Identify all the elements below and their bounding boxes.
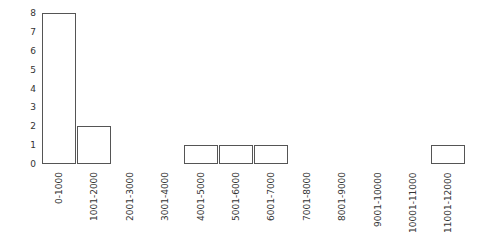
x-tick-label: 2001-3000 <box>125 172 135 221</box>
y-tick-label: 3 <box>26 102 36 112</box>
x-tick-label: 0-1000 <box>54 172 64 204</box>
bar <box>431 145 465 164</box>
bar <box>184 145 218 164</box>
bar <box>254 145 288 164</box>
x-tick-label: 7001-8000 <box>302 172 312 221</box>
y-tick-label: 1 <box>26 140 36 150</box>
histogram-chart: 012345678 0-10001001-20002001-30003001-4… <box>0 0 483 247</box>
x-tick-label: 9001-10000 <box>373 172 383 227</box>
y-tick-label: 4 <box>26 84 36 94</box>
x-tick-label: 11001-12000 <box>443 172 453 233</box>
x-tick-label: 10001-11000 <box>408 172 418 233</box>
x-tick-label: 6001-7000 <box>266 172 276 221</box>
x-tick-label: 3001-4000 <box>160 172 170 221</box>
y-tick-label: 6 <box>26 46 36 56</box>
x-tick-label: 1001-2000 <box>89 172 99 221</box>
y-tick-label: 7 <box>26 27 36 37</box>
bar <box>219 145 253 164</box>
bar <box>77 126 111 164</box>
y-tick-label: 2 <box>26 121 36 131</box>
x-tick-label: 8001-9000 <box>337 172 347 221</box>
y-tick-label: 0 <box>26 159 36 169</box>
y-tick-label: 8 <box>26 8 36 18</box>
x-tick-label: 4001-5000 <box>196 172 206 221</box>
x-tick-label: 5001-6000 <box>231 172 241 221</box>
y-tick-label: 5 <box>26 65 36 75</box>
bar <box>42 13 76 164</box>
